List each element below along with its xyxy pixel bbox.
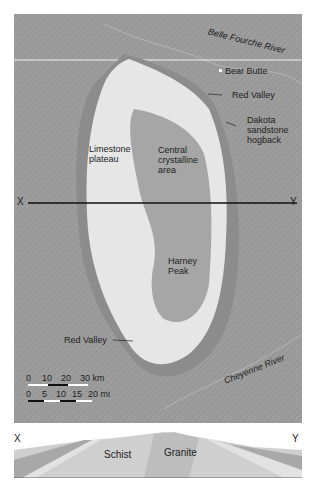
bear-butte-label: Bear Butte <box>225 66 268 76</box>
harney-label-2: Peak <box>168 266 189 276</box>
central-label-1: Central <box>158 145 187 155</box>
central-label-2: crystalline <box>158 155 198 165</box>
x-label: X <box>17 197 24 207</box>
dakota-label-3: hogback <box>247 135 281 145</box>
central-label-3: area <box>158 165 176 175</box>
mi-tick-10: 10 <box>56 389 66 399</box>
geologic-cross-section: Schist Granite <box>14 432 302 478</box>
km-tick-20: 20 <box>61 373 71 383</box>
granite-label: Granite <box>164 448 197 458</box>
dakota-label-1: Dakota <box>247 115 276 125</box>
km-tick-0: 0 <box>26 373 31 383</box>
mi-tick-20: 20 mi <box>88 389 110 399</box>
schist-label: Schist <box>104 450 131 460</box>
mi-tick-5: 5 <box>42 389 47 399</box>
km-tick-10: 10 <box>42 373 52 383</box>
harney-label-1: Harney <box>168 256 197 266</box>
red-valley-south-label: Red Valley <box>64 335 107 345</box>
black-hills-shaded-relief-map: Belle Fourche River Bear Butte Red Valle… <box>14 14 302 423</box>
y-label: Y <box>290 197 297 207</box>
limestone-label-1: Limestone <box>89 144 131 154</box>
mi-tick-15: 15 <box>72 389 82 399</box>
dakota-label-2: sandstone <box>247 125 289 135</box>
limestone-label-2: plateau <box>89 154 119 164</box>
mi-tick-0: 0 <box>26 389 31 399</box>
km-tick-30: 30 km <box>80 373 105 383</box>
cross-section-shapes <box>14 432 302 478</box>
red-valley-north-label: Red Valley <box>232 90 275 100</box>
